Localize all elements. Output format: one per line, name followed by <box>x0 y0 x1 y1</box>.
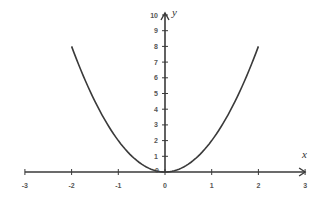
x-tick-label: -1 <box>115 182 121 189</box>
y-tick-label: 6 <box>154 74 158 81</box>
x-tick-label: 0 <box>163 182 167 189</box>
x-tick-label: 1 <box>210 182 214 189</box>
y-tick-label: 8 <box>154 43 158 50</box>
y-tick-label: 3 <box>154 121 158 128</box>
x-tick-label: 2 <box>256 182 260 189</box>
parabola-chart: -3-2-10123 012345678910 x y <box>0 0 323 197</box>
y-tick-label: 5 <box>154 90 158 97</box>
x-tick-label: -2 <box>68 182 74 189</box>
y-axis <box>161 13 169 172</box>
x-tick-label: -3 <box>22 182 28 189</box>
y-axis-label: y <box>171 6 177 18</box>
x-tick-label: 3 <box>303 182 307 189</box>
y-tick-label: 7 <box>154 59 158 66</box>
y-tick-label: 1 <box>154 153 158 160</box>
y-tick-label: 4 <box>154 106 158 113</box>
y-tick-label: 10 <box>150 12 158 19</box>
x-axis-label: x <box>301 148 307 160</box>
y-tick-label: 9 <box>154 27 158 34</box>
y-tick-label: 2 <box>154 137 158 144</box>
